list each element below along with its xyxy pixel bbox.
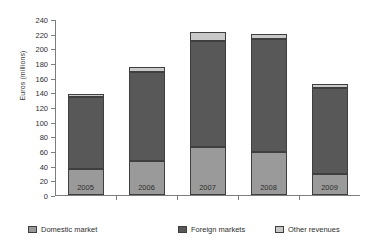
x-tick-label: 2006 xyxy=(138,183,155,192)
y-tick-label: 80 xyxy=(40,133,48,142)
bar-segment[interactable] xyxy=(251,39,287,153)
x-tick xyxy=(116,196,117,200)
x-axis-line xyxy=(55,195,360,196)
bar-segment[interactable] xyxy=(68,94,104,98)
bar-2008[interactable] xyxy=(251,34,287,195)
y-tick-label: 40 xyxy=(40,162,48,171)
y-tick-label: 100 xyxy=(35,118,48,127)
legend-label: Domestic market xyxy=(41,225,97,234)
y-tick-label: 240 xyxy=(35,16,48,25)
y-tick xyxy=(51,108,55,109)
y-tick xyxy=(51,93,55,94)
y-tick xyxy=(51,137,55,138)
bar-segment[interactable] xyxy=(68,97,104,169)
bar-segment[interactable] xyxy=(129,72,165,161)
legend-swatch-icon xyxy=(275,226,284,233)
y-tick xyxy=(51,79,55,80)
bar-2005[interactable] xyxy=(68,94,104,195)
bar-segment[interactable] xyxy=(251,34,287,38)
y-tick xyxy=(51,35,55,36)
legend-item[interactable]: Foreign markets xyxy=(178,225,245,234)
x-tick-label: 2008 xyxy=(260,183,277,192)
bar-segment[interactable] xyxy=(312,84,348,88)
bar-segment[interactable] xyxy=(129,67,165,71)
legend-item[interactable]: Domestic market xyxy=(28,225,97,234)
y-tick-label: 120 xyxy=(35,104,48,113)
bar-segment[interactable] xyxy=(190,41,226,147)
legend-swatch-icon xyxy=(28,226,37,233)
bar-2006[interactable] xyxy=(129,67,165,195)
y-tick-label: 160 xyxy=(35,74,48,83)
plot-area: 020406080100120140160180200220240 xyxy=(55,20,360,196)
bar-segment[interactable] xyxy=(190,32,226,41)
x-tick xyxy=(177,196,178,200)
bar-2007[interactable] xyxy=(190,32,226,195)
y-tick xyxy=(51,196,55,197)
x-tick-label: 2009 xyxy=(321,183,338,192)
x-tick xyxy=(299,196,300,200)
y-tick xyxy=(51,181,55,182)
x-tick-label: 2005 xyxy=(77,183,94,192)
y-axis-line xyxy=(55,20,56,196)
y-tick-label: 20 xyxy=(40,177,48,186)
legend-label: Foreign markets xyxy=(191,225,245,234)
legend-swatch-icon xyxy=(178,226,187,233)
y-tick-label: 140 xyxy=(35,89,48,98)
bar-2009[interactable] xyxy=(312,84,348,195)
y-tick xyxy=(51,123,55,124)
bar-segment[interactable] xyxy=(312,88,348,175)
y-tick-label: 200 xyxy=(35,45,48,54)
y-tick xyxy=(51,49,55,50)
y-tick-label: 220 xyxy=(35,30,48,39)
chart-legend: Domestic marketForeign marketsOther reve… xyxy=(28,225,363,239)
y-tick xyxy=(51,167,55,168)
x-tick xyxy=(238,196,239,200)
x-tick-label: 2007 xyxy=(199,183,216,192)
legend-item[interactable]: Other revenues xyxy=(275,225,340,234)
y-axis-title: Euros (millions) xyxy=(19,21,26,131)
y-tick xyxy=(51,152,55,153)
legend-label: Other revenues xyxy=(288,225,340,234)
y-tick xyxy=(51,64,55,65)
stacked-bar-chart: Euros (millions) 02040608010012014016018… xyxy=(0,0,385,244)
y-tick-label: 180 xyxy=(35,60,48,69)
y-tick xyxy=(51,20,55,21)
y-tick-label: 60 xyxy=(40,148,48,157)
y-tick-label: 0 xyxy=(44,192,48,201)
